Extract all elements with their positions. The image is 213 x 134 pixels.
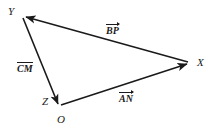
point-label-z: Z [42,96,48,107]
vector-line-cm [23,18,58,104]
vector-label-an-wrap: AN [119,93,133,104]
vector-overbar-cm [17,62,33,63]
vector-label-bp: BP [106,25,119,36]
vector-arrow-overbar-bp [106,24,119,25]
vector-label-an: AN [119,93,133,104]
vector-diagram: Y X O Z BP CM AN [0,0,213,134]
point-label-o: O [57,114,65,125]
point-label-y: Y [8,6,14,17]
vector-label-cm-text: CM [17,63,33,74]
vector-label-bp-wrap: BP [106,25,119,36]
vector-label-cm-wrap: CM [17,63,33,74]
vector-label-bp-text: BP [106,25,119,36]
vector-label-cm: CM [17,63,33,74]
vector-label-an-text: AN [119,93,133,104]
point-label-x: X [197,57,204,68]
vector-arrow-overbar-an [119,92,133,93]
